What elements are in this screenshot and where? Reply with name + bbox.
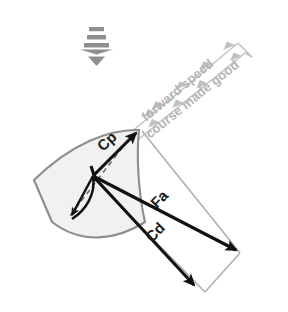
sail-force-diagram: forward speed course made good: [0, 0, 288, 312]
wind-bar-1: [89, 27, 104, 31]
wind-bar-3: [84, 43, 109, 48]
wind-flare: [80, 50, 113, 55]
flow-bracket-right: [238, 43, 252, 57]
wind-bar-2: [87, 35, 106, 39]
wind-arrowhead: [88, 57, 105, 67]
wind-direction-icon: [80, 27, 113, 66]
sail-force-diagram-root: forward speed course made good: [0, 0, 288, 312]
cd-label: Cd: [142, 219, 168, 245]
